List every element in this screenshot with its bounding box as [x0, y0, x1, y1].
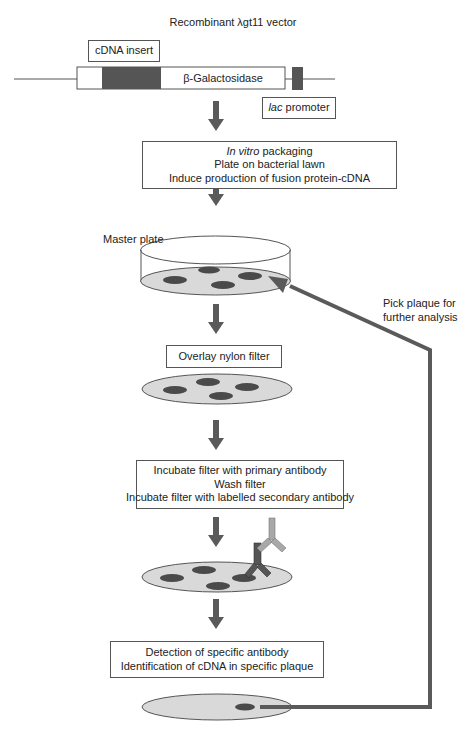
plaque — [198, 267, 220, 274]
pick-plaque-line-2: further analysis — [383, 310, 458, 324]
plaque — [160, 574, 184, 582]
packaging-line-1: In vitro packaging — [226, 145, 312, 159]
plaque — [235, 383, 259, 391]
overlay-filter-step-box: Overlay nylon filter — [166, 345, 282, 368]
down-arrow-icon — [208, 420, 224, 450]
plaque — [209, 392, 233, 400]
incubate-line-3: Incubate filter with labelled secondary … — [126, 491, 354, 505]
plaque — [211, 281, 235, 289]
master-plate-label: Master plate — [103, 233, 164, 246]
lac-promoter-label: lac promoter — [262, 97, 336, 119]
lac-text: lac — [268, 101, 282, 115]
overlay-text: Overlay nylon filter — [178, 350, 269, 364]
down-arrow-icon — [208, 304, 224, 334]
detection-step-box: Detection of specific antibody Identific… — [110, 641, 324, 678]
incubate-line-1: Incubate filter with primary antibody — [153, 464, 326, 478]
down-arrow-icon — [208, 599, 224, 629]
diagram-title: Recombinant λgt11 vector — [0, 16, 466, 29]
promoter-text: promoter — [282, 101, 329, 115]
down-arrow-icon — [208, 101, 224, 131]
incubate-line-2: Wash filter — [214, 478, 266, 492]
pick-plaque-label: Pick plaque for further analysis — [383, 296, 458, 324]
down-arrow-icon — [208, 517, 224, 547]
plaque — [163, 386, 187, 394]
plaque — [196, 378, 220, 386]
beta-galactosidase-label: β-Galactosidase — [161, 72, 285, 85]
lac-promoter-segment — [292, 67, 303, 90]
packaging-step-box: In vitro packaging Plate on bacterial la… — [142, 141, 397, 189]
pick-plaque-line-1: Pick plaque for — [383, 296, 458, 310]
plaque — [192, 566, 216, 574]
detection-line-2: Identification of cDNA in specific plaqu… — [121, 660, 314, 674]
cdna-insert-segment — [102, 67, 161, 89]
cdna-insert-text: cDNA insert — [95, 44, 153, 58]
incubate-step-box: Incubate filter with primary antibody Wa… — [136, 460, 344, 509]
packaging-line-2: Plate on bacterial lawn — [214, 158, 325, 172]
plaque — [238, 272, 262, 280]
secondary-antibody-icon — [257, 518, 286, 552]
specific-plaque — [235, 704, 255, 711]
packaging-line-3: Induce production of fusion protein-cDNA — [169, 172, 370, 186]
plaque — [206, 582, 230, 590]
plaque — [232, 574, 256, 582]
plaque — [163, 276, 187, 284]
detection-line-1: Detection of specific antibody — [145, 646, 288, 660]
nylon-filter — [142, 374, 292, 404]
cdna-insert-label: cDNA insert — [88, 40, 160, 62]
antibody-filter — [142, 562, 292, 592]
